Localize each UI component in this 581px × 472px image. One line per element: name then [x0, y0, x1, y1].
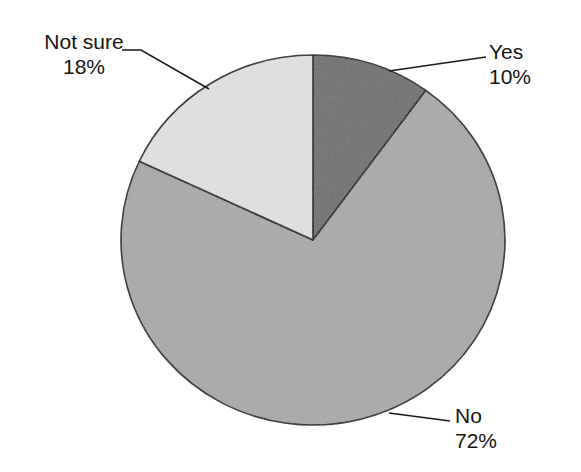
pie-slice-label-no-percent: 72%: [455, 428, 535, 453]
pie-slice-label-yes-percent: 10%: [489, 64, 569, 89]
pie-slice-label-not-sure-percent: 18%: [28, 54, 140, 79]
pie-slice-label-not-sure-name: Not sure: [28, 29, 140, 54]
pie-slice-label-no-name: No: [455, 403, 535, 428]
pie-chart-figure: Not sure 18% Yes 10% No 72%: [0, 0, 581, 472]
pie-slice-label-yes: Yes 10%: [489, 39, 569, 89]
leader-line-no: [389, 413, 450, 421]
pie-slice-label-yes-name: Yes: [489, 39, 569, 64]
pie-slice-label-not-sure: Not sure 18%: [28, 29, 140, 79]
leader-line-yes: [389, 57, 486, 71]
pie-slice-label-no: No 72%: [455, 403, 535, 453]
pie-slices-group: [121, 55, 505, 425]
